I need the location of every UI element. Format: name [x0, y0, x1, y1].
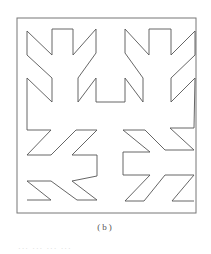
cropped-footer-text: ··· ··· ··· ···: [18, 244, 72, 253]
fractal-curve-diagram: [0, 0, 211, 254]
figure-caption: (b): [0, 222, 211, 232]
space-filling-curve: [27, 29, 195, 201]
